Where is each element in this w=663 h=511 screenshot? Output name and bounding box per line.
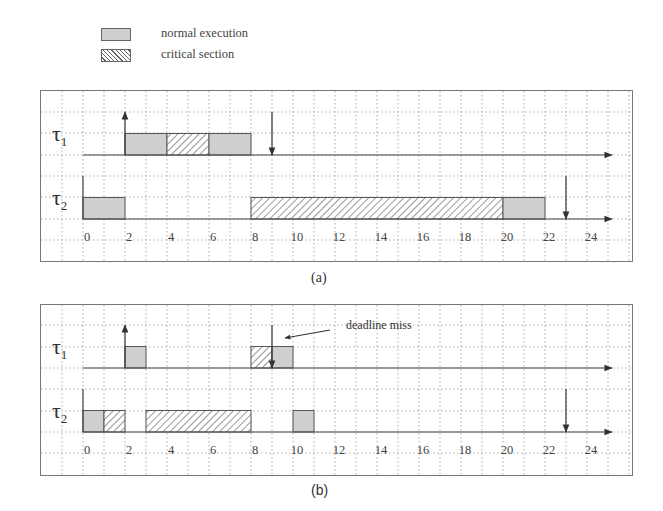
tick-label: 20 bbox=[501, 443, 514, 458]
tick-label: 24 bbox=[585, 230, 598, 245]
task-label-2: τ2 bbox=[52, 398, 67, 427]
tick-label: 6 bbox=[210, 443, 216, 458]
segment-normal bbox=[125, 134, 167, 156]
tick-label: 2 bbox=[126, 443, 132, 458]
tick-label: 14 bbox=[375, 230, 388, 245]
segment-normal bbox=[83, 411, 104, 433]
segment-critical bbox=[146, 411, 251, 433]
caption-b: (b) bbox=[311, 482, 328, 498]
tick-label: 16 bbox=[417, 230, 430, 245]
tick-label: 16 bbox=[417, 443, 430, 458]
segment-normal bbox=[209, 134, 251, 156]
tick-label: 10 bbox=[291, 230, 304, 245]
tick-label: 14 bbox=[375, 443, 388, 458]
tick-label: 22 bbox=[543, 443, 556, 458]
deadline-miss-annotation: deadline miss bbox=[346, 318, 412, 333]
tick-label: 0 bbox=[84, 230, 90, 245]
segment-normal bbox=[503, 198, 545, 220]
segment-normal bbox=[125, 347, 146, 369]
segment-critical bbox=[251, 198, 503, 220]
tick-label: 12 bbox=[333, 230, 346, 245]
task-label-1: τ1 bbox=[52, 121, 67, 150]
segment-critical bbox=[251, 347, 272, 369]
tick-label: 4 bbox=[168, 230, 174, 245]
tick-label: 8 bbox=[252, 230, 258, 245]
tick-label: 0 bbox=[84, 443, 90, 458]
tick-label: 6 bbox=[210, 230, 216, 245]
task-label-1: τ1 bbox=[52, 334, 67, 363]
segment-normal bbox=[83, 198, 125, 220]
tick-label: 22 bbox=[543, 230, 556, 245]
segment-critical bbox=[104, 411, 125, 433]
task-label-2: τ2 bbox=[52, 185, 67, 214]
segment-normal bbox=[293, 411, 314, 433]
segment-normal bbox=[272, 347, 293, 369]
tick-label: 10 bbox=[291, 443, 304, 458]
segment-critical bbox=[167, 134, 209, 156]
tick-label: 4 bbox=[168, 443, 174, 458]
tick-label: 18 bbox=[459, 230, 472, 245]
tick-label: 12 bbox=[333, 443, 346, 458]
caption-a: (a) bbox=[311, 270, 327, 286]
tick-label: 20 bbox=[501, 230, 514, 245]
tick-label: 2 bbox=[126, 230, 132, 245]
schedule-diagram bbox=[0, 0, 663, 511]
tick-label: 18 bbox=[459, 443, 472, 458]
tick-label: 8 bbox=[252, 443, 258, 458]
tick-label: 24 bbox=[585, 443, 598, 458]
